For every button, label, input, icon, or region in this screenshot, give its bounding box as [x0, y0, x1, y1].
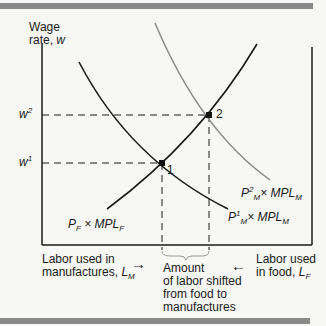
arrow-right-icon: →	[131, 257, 146, 270]
manuf2-curve	[155, 23, 270, 180]
x-left-axis-label: Labor used in manufactures, LM	[42, 253, 135, 279]
x-right-axis-label: Labor used in food, LF	[256, 253, 316, 279]
point-2-marker	[206, 112, 212, 118]
point-1-marker	[159, 160, 165, 166]
labor-shift-caption: Amount of labor shifted from food to man…	[163, 262, 242, 314]
point-2-label: 2	[216, 108, 223, 121]
w2-label: w2	[19, 108, 32, 121]
labor-shift-brace	[162, 251, 209, 260]
food-curve	[107, 44, 257, 209]
manuf1-curve-label: P1M× MPLM	[228, 211, 289, 224]
arrow-left-icon: ←	[231, 259, 246, 272]
point-1-label: 1	[167, 164, 174, 177]
manuf2-curve-label: P2M× MPLM	[241, 187, 302, 200]
manuf1-curve	[79, 62, 228, 209]
food-curve-label: PF × MPLF	[68, 218, 124, 231]
y-axis-label: Wage rate, w	[29, 21, 65, 47]
w1-label: w1	[19, 156, 32, 169]
